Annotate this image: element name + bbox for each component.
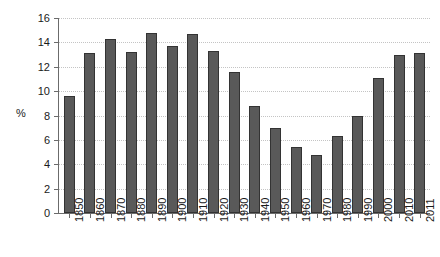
bar [373,78,384,213]
x-axis-tick [399,213,400,218]
x-axis-tick [90,213,91,218]
x-axis-tick [275,213,276,218]
x-axis-tick-label: 1920 [218,198,230,222]
bars-layer [59,18,430,213]
bar [146,33,157,213]
bar [84,53,95,213]
x-axis-tick-label: 1870 [115,198,127,222]
bar [64,96,75,213]
x-axis-tick [172,213,173,218]
y-axis-tick-label: 10 [38,85,50,97]
y-axis-tick-label: 8 [44,110,50,122]
bar-chart-figure: % 0246810121416 185018601870188018901900… [0,0,440,257]
x-axis-tick [193,213,194,218]
x-axis-tick [234,213,235,218]
x-axis-tick [296,213,297,218]
x-axis-tick-label: 2011 [424,198,436,222]
y-axis-tick-label: 4 [44,158,50,170]
bar [208,51,219,213]
x-axis-tick-label: 1940 [259,198,271,222]
x-axis-tick-label: 1970 [321,198,333,222]
x-axis-tick-label: 1890 [156,198,168,222]
x-axis-tick [337,213,338,218]
x-axis-tick [152,213,153,218]
x-axis-tick [358,213,359,218]
y-axis-tick-label: 0 [44,207,50,219]
x-axis-tick-label: 1980 [341,198,353,222]
x-axis-tick-label: 1930 [238,198,250,222]
bar [167,46,178,213]
bar [105,39,116,213]
y-axis-tick-label: 14 [38,36,50,48]
x-axis-tick-label: 2010 [403,198,415,222]
x-axis-tick-label: 1950 [279,198,291,222]
y-axis-tick-label: 2 [44,183,50,195]
x-axis-tick-label: 1860 [94,198,106,222]
bar [126,52,137,213]
x-axis-tick [420,213,421,218]
x-axis-tick [69,213,70,218]
x-axis-tick [255,213,256,218]
y-axis-title: % [9,108,33,119]
plot-area: 0246810121416 [58,18,430,214]
x-axis-tick-label: 1900 [176,198,188,222]
y-axis-tick [54,213,59,214]
x-axis-tick [378,213,379,218]
x-axis-tick [111,213,112,218]
bar [394,55,405,213]
x-axis-tick-label: 1880 [135,198,147,222]
x-axis-tick [214,213,215,218]
y-axis-tick-label: 6 [44,134,50,146]
y-axis-tick-label: 12 [38,61,50,73]
x-axis-tick-label: 1960 [300,198,312,222]
bar [187,34,198,213]
bar [414,53,425,213]
x-axis-tick [131,213,132,218]
bar [229,72,240,213]
x-axis-tick-label: 1850 [73,198,85,222]
x-axis-tick-label: 1990 [362,198,374,222]
x-axis-tick [317,213,318,218]
y-axis-tick-label: 16 [38,12,50,24]
x-axis-tick-label: 2000 [382,198,394,222]
x-axis-tick-label: 1910 [197,198,209,222]
